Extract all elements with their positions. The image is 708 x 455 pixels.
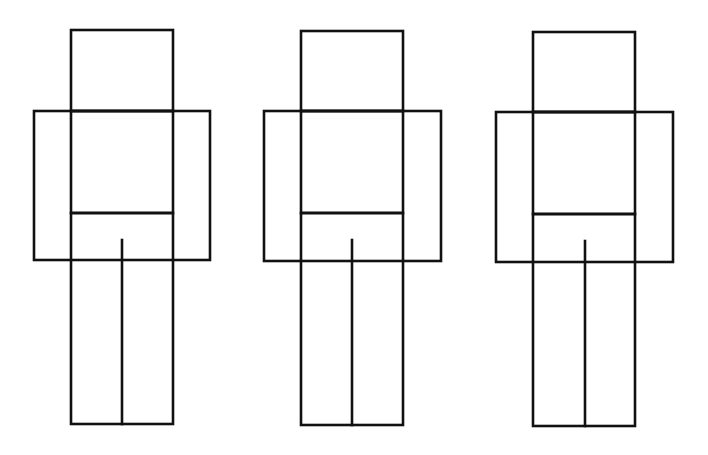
diagram-canvas — [0, 0, 708, 455]
humanoid-figure-1 — [34, 30, 210, 424]
head-outline — [533, 32, 635, 112]
torso-outline — [301, 111, 403, 213]
head-outline — [301, 31, 403, 111]
humanoid-figure-2 — [264, 31, 441, 425]
torso-outline — [71, 111, 173, 213]
arms-outline — [34, 111, 210, 260]
arms-outline — [496, 112, 673, 262]
arms-outline — [264, 111, 441, 261]
head-outline — [71, 30, 173, 111]
torso-outline — [533, 112, 635, 214]
humanoid-figure-3 — [496, 32, 673, 426]
